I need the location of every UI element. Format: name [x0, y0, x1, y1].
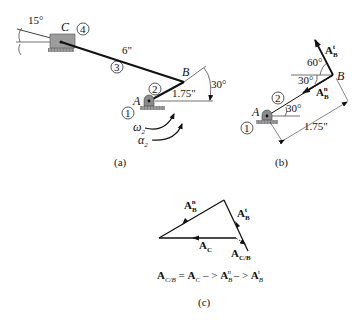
figure-a: 15° C 4 6" 3 B 30° 1.75" 2 A 1 ω2: [16, 14, 226, 169]
angle-30-bottom-label: 30°: [286, 102, 301, 114]
point-a-label: A: [132, 94, 141, 108]
link-3-label: 3: [114, 61, 120, 73]
vector-c-ab-n-label: ABn: [184, 198, 197, 214]
point-a-label-b: A: [251, 105, 260, 119]
mechanism-diagram: 15° C 4 6" 3 B 30° 1.75" 2 A 1 ω2: [0, 0, 362, 327]
point-c-label: C: [61, 20, 70, 34]
vector-c-acb-label: AC/B: [231, 247, 251, 262]
angle-30-arc: [204, 68, 211, 100]
vector-ab-t-label: ABt: [325, 43, 338, 59]
angle-15-label: 15°: [28, 14, 43, 26]
length-175-label: 1.75": [172, 87, 196, 99]
length-label-b: 1.75": [304, 120, 328, 132]
figure-c: ABn ABt AC AC/B AC/B = AC – > ABn – > AB…: [157, 198, 264, 309]
link-2-label-b: 2: [275, 92, 281, 104]
caption-b: (b): [275, 156, 288, 169]
alpha-arrow-icon: [152, 124, 182, 140]
angle-30-top-label: 30°: [298, 74, 313, 86]
length-6-label: 6": [122, 44, 132, 56]
caption-a: (a): [114, 156, 127, 169]
link-1-label-b: 1: [244, 122, 250, 134]
pivot-a-ground: [140, 106, 165, 110]
link-1-label: 1: [125, 107, 131, 119]
caption-c: (c): [198, 296, 211, 309]
vector-c-ab-t-label: ABt: [237, 206, 250, 222]
angle-60-label: 60°: [307, 56, 322, 68]
pivot-a-ground-b: [256, 120, 278, 124]
figure-b: ABt 60° 30° B ABn 2 30° A 1 1.75" (b): [241, 40, 348, 169]
vector-ab-n-label: ABn: [316, 85, 329, 101]
angle-30-label: 30°: [211, 78, 226, 90]
omega-arrow-icon: [145, 114, 174, 129]
link-4-label: 4: [80, 23, 86, 35]
vector-equation: AC/B = AC – > ABn – > ABt: [157, 268, 264, 284]
vector-c-ac-label: AC: [199, 239, 212, 254]
slider-ground: [48, 48, 74, 52]
alpha-label: α2: [138, 133, 148, 149]
link-2-label: 2: [152, 83, 158, 95]
point-b-label: B: [182, 65, 190, 79]
point-b-label-b: B: [337, 69, 345, 83]
